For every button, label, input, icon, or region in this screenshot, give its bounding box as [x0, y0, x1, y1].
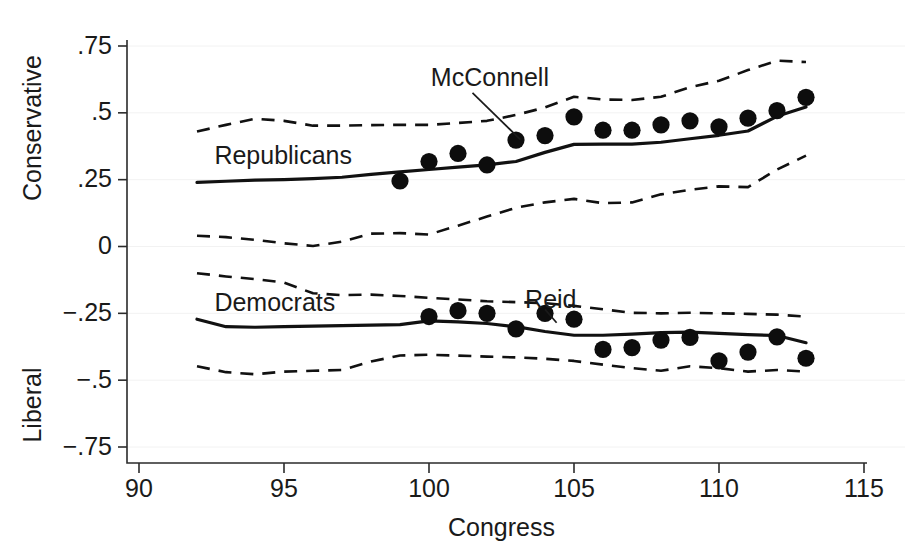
- point-mcconnell-104: [536, 127, 553, 144]
- point-mcconnell-100: [420, 153, 437, 170]
- x-tick-label-3: 105: [553, 474, 595, 502]
- point-mcconnell-107: [623, 122, 640, 139]
- series-3-solid: [197, 319, 806, 343]
- point-mcconnell-108: [652, 116, 669, 133]
- chart-container: .75.5.250−.25−.5−.759095100105110115Cong…: [0, 0, 911, 557]
- x-axis-title: Congress: [448, 513, 555, 541]
- y-tick-label-2: .25: [77, 164, 112, 192]
- plot-axes: [127, 40, 867, 463]
- point-reid-113: [797, 350, 814, 367]
- series-2-dashed: [197, 156, 806, 246]
- point-mcconnell-113: [797, 89, 814, 106]
- x-tick-label-1: 95: [270, 474, 298, 502]
- annotation-republicans: Republicans: [214, 141, 352, 169]
- point-reid-108: [652, 331, 669, 348]
- point-mcconnell-102: [478, 156, 495, 173]
- y-axis-anchor-bottom: Liberal: [18, 367, 46, 442]
- point-mcconnell-112: [768, 102, 785, 119]
- x-tick-label-4: 110: [699, 474, 739, 502]
- annotation-democrats: Democrats: [214, 288, 335, 316]
- y-axis-anchor-top: Conservative: [18, 55, 46, 201]
- point-reid-105: [565, 311, 582, 328]
- point-reid-102: [478, 305, 495, 322]
- point-mcconnell-99: [391, 172, 408, 189]
- point-reid-100: [420, 308, 437, 325]
- point-reid-101: [449, 302, 466, 319]
- point-reid-107: [623, 339, 640, 356]
- point-reid-110: [710, 352, 727, 369]
- annotation-mcconnell: McConnell: [431, 63, 549, 91]
- y-tick-label-6: −.75: [63, 432, 112, 460]
- point-reid-106: [594, 341, 611, 358]
- point-mcconnell-103: [507, 132, 524, 149]
- point-mcconnell-105: [565, 108, 582, 125]
- point-mcconnell-110: [710, 118, 727, 135]
- x-tick-label-5: 115: [844, 474, 884, 502]
- congress-ideology-chart: .75.5.250−.25−.5−.759095100105110115Cong…: [0, 0, 911, 557]
- y-tick-label-0: .75: [77, 31, 112, 59]
- y-tick-label-3: 0: [98, 231, 112, 259]
- point-reid-103: [507, 320, 524, 337]
- annotation-reid: Reid: [525, 285, 576, 313]
- point-mcconnell-109: [681, 112, 698, 129]
- y-tick-label-4: −.25: [63, 298, 112, 326]
- point-mcconnell-106: [594, 122, 611, 139]
- x-tick-label-2: 100: [408, 474, 450, 502]
- point-reid-111: [739, 344, 756, 361]
- point-reid-109: [681, 329, 698, 346]
- point-mcconnell-101: [449, 145, 466, 162]
- x-tick-label-0: 90: [125, 474, 153, 502]
- point-reid-112: [768, 328, 785, 345]
- point-mcconnell-111: [739, 110, 756, 127]
- y-tick-label-5: −.5: [77, 365, 112, 393]
- y-tick-label-1: .5: [91, 97, 112, 125]
